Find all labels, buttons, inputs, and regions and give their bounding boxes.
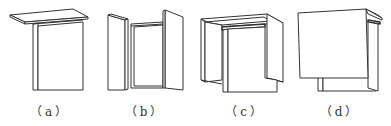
figure-b: （b） — [95, 0, 195, 126]
cabinet-d-drawing — [290, 0, 390, 100]
cabinet-c-drawing — [195, 0, 295, 100]
figure-d: （d） — [290, 0, 390, 126]
figure-c: （c） — [195, 0, 295, 126]
figure-a: （a） — [0, 0, 100, 126]
figure-label: （d） — [290, 102, 390, 119]
cabinet-b-drawing — [95, 0, 195, 100]
figure-label: （c） — [195, 102, 295, 119]
figure-label: （a） — [0, 102, 100, 119]
cabinet-a-drawing — [0, 0, 100, 100]
figure-label: （b） — [95, 102, 195, 119]
